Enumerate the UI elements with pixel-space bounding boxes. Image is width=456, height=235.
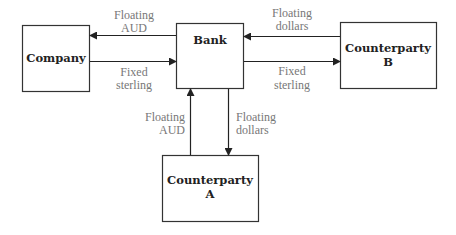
company-node: Company	[23, 26, 90, 92]
flow-label-bank-a-2: dollars	[236, 123, 269, 137]
flow-label-bank-company-2: AUD	[121, 21, 147, 35]
flow-label-bank-b-1: Fixed	[278, 64, 305, 78]
counterparty-b-label-line2: B	[383, 55, 393, 69]
flow-label-bank-b-2: sterling	[274, 78, 310, 92]
flow-label-a-bank-2: AUD	[159, 123, 185, 137]
flow-label-company-bank-1: Fixed	[120, 65, 147, 79]
bank-node: Bank	[177, 24, 244, 89]
counterparty-a-label-line2: A	[205, 187, 216, 201]
flow-label-company-bank-2: sterling	[116, 78, 152, 92]
counterparty-a-node: Counterparty A	[163, 156, 259, 222]
flow-label-bank-a-1: Floating	[236, 110, 276, 124]
flow-label-bank-company-1: Floating	[114, 8, 154, 22]
swap-diagram: Company Bank Counterparty B Counterparty…	[0, 0, 456, 235]
flow-label-b-bank-1: Floating	[272, 6, 312, 20]
counterparty-a-label-line1: Counterparty	[167, 173, 253, 187]
flow-label-b-bank-2: dollars	[276, 19, 309, 33]
bank-label: Bank	[193, 33, 228, 47]
flow-label-a-bank-1: Floating	[145, 110, 185, 124]
counterparty-b-node: Counterparty B	[341, 23, 437, 89]
company-label: Company	[26, 51, 86, 65]
counterparty-b-label-line1: Counterparty	[345, 41, 431, 55]
